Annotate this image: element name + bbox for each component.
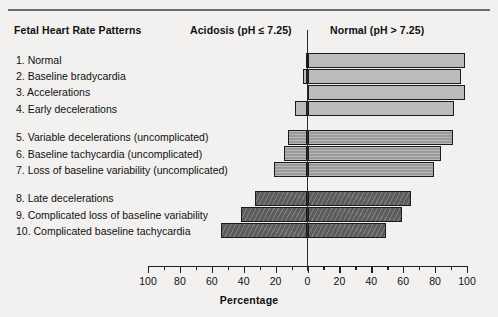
top-divider: [8, 9, 490, 11]
x-axis-tick-major: [467, 266, 468, 273]
x-axis-tick-major: [180, 266, 181, 273]
bar-normal: [308, 69, 461, 84]
x-axis-tick-major: [308, 266, 309, 273]
x-axis-tick-minor: [260, 266, 261, 270]
bar-acidosis: [241, 207, 308, 222]
zero-axis-line: [307, 30, 308, 271]
category-label: 1. Normal: [16, 54, 62, 66]
category-label: 9. Complicated loss of baseline variabil…: [16, 209, 208, 221]
x-axis-tick-label: 60: [397, 275, 409, 287]
x-axis-tick-minor: [164, 266, 165, 270]
x-axis-tick-major: [276, 266, 277, 273]
bar-normal: [308, 53, 466, 68]
x-axis-tick-major: [244, 266, 245, 273]
x-axis-tick-minor: [323, 266, 324, 270]
bar-acidosis: [221, 223, 307, 238]
x-axis-tick-major: [339, 266, 340, 273]
category-label: 2. Baseline bradycardia: [16, 70, 126, 82]
category-label: 3. Accelerations: [16, 86, 90, 98]
x-axis-tick-label: 20: [270, 275, 282, 287]
x-axis-tick-label: 80: [429, 275, 441, 287]
x-axis-tick-minor: [387, 266, 388, 270]
chart-figure: Fetal Heart Rate Patterns Acidosis (pH ≤…: [0, 0, 498, 317]
x-axis-tick-minor: [419, 266, 420, 270]
x-axis-tick-major: [435, 266, 436, 273]
bar-acidosis: [306, 53, 308, 68]
x-axis-tick-label: 20: [334, 275, 346, 287]
x-axis-tick-label: 40: [365, 275, 377, 287]
x-axis-tick-minor: [451, 266, 452, 270]
bar-acidosis: [295, 101, 308, 116]
x-axis-tick-major: [212, 266, 213, 273]
bar-normal: [308, 146, 442, 161]
x-axis-tick-minor: [292, 266, 293, 270]
bar-acidosis: [303, 69, 308, 84]
category-label: 7. Loss of baseline variability (uncompl…: [16, 164, 228, 176]
x-axis-title: Percentage: [0, 294, 498, 306]
column-header-patterns: Fetal Heart Rate Patterns: [14, 24, 141, 36]
bar-normal: [308, 162, 434, 177]
category-label: 4. Early decelerations: [16, 103, 117, 115]
bar-normal: [308, 223, 386, 238]
x-axis-tick-major: [403, 266, 404, 273]
x-axis-tick-label: 40: [238, 275, 250, 287]
x-axis-tick-major: [371, 266, 372, 273]
bar-acidosis: [284, 146, 308, 161]
category-label: 6. Baseline tachycardia (uncomplicated): [16, 148, 202, 160]
bar-normal: [308, 191, 412, 206]
bar-acidosis: [255, 191, 308, 206]
x-axis-tick-label: 100: [458, 275, 476, 287]
x-axis-tick-major: [148, 266, 149, 273]
x-axis-tick-label: 80: [174, 275, 186, 287]
category-label: 10. Complicated baseline tachycardia: [16, 225, 191, 237]
x-axis-tick-minor: [355, 266, 356, 270]
bar-normal: [308, 85, 466, 100]
x-axis-tick-minor: [196, 266, 197, 270]
x-axis-tick-label: 0: [305, 275, 311, 287]
bar-normal: [308, 130, 453, 145]
x-axis-tick-label: 100: [139, 275, 157, 287]
bar-acidosis: [288, 130, 307, 145]
category-label: 5. Variable decelerations (uncomplicated…: [16, 131, 208, 143]
category-label: 8. Late decelerations: [16, 192, 113, 204]
bar-acidosis: [274, 162, 307, 177]
x-axis-tick-minor: [228, 266, 229, 270]
bar-normal: [308, 207, 402, 222]
column-header-normal: Normal (pH > 7.25): [330, 24, 424, 36]
bar-normal: [308, 101, 455, 116]
x-axis-tick-label: 60: [206, 275, 218, 287]
column-header-acidosis: Acidosis (pH ≤ 7.25): [190, 24, 292, 36]
